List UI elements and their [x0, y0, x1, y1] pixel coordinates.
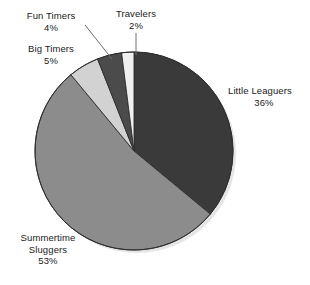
- slice-label-big-timers-value: 5%: [12, 55, 90, 67]
- slice-label-big-timers: Big Timers 5%: [12, 43, 90, 66]
- slice-label-fun-timers-value: 4%: [12, 22, 90, 34]
- slice-label-little-leaguers: Little Leaguers 36%: [228, 85, 310, 108]
- slice-label-little-leaguers-value: 36%: [228, 97, 300, 109]
- slice-label-travelers-name: Travelers: [104, 8, 168, 20]
- slice-label-big-timers-name: Big Timers: [12, 43, 90, 55]
- slice-label-summertime-sluggers-name-line2: Sluggers: [2, 244, 94, 256]
- slice-label-travelers-value: 2%: [104, 20, 168, 32]
- pie-chart-figure: Fun Timers 4% Big Timers 5% Travelers 2%…: [0, 0, 310, 285]
- slice-label-summertime-sluggers-value: 53%: [2, 255, 94, 267]
- slice-label-little-leaguers-name: Little Leaguers: [228, 85, 310, 97]
- slice-label-summertime-sluggers: Summertime Sluggers 53%: [2, 232, 94, 267]
- slice-label-fun-timers: Fun Timers 4%: [12, 10, 90, 33]
- pie-slices-group: [35, 52, 233, 250]
- slice-label-summertime-sluggers-name-line1: Summertime: [2, 232, 94, 244]
- slice-label-fun-timers-name: Fun Timers: [12, 10, 90, 22]
- slice-label-travelers: Travelers 2%: [104, 8, 168, 31]
